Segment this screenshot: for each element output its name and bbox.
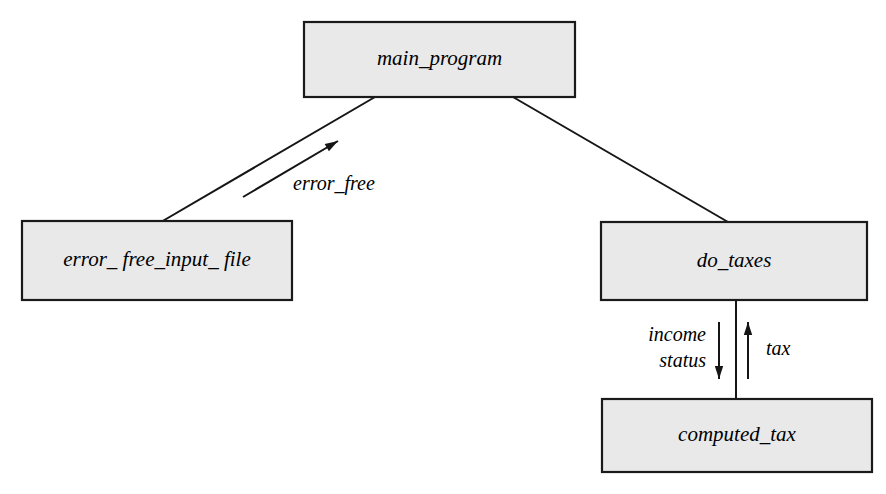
edge-main-program-to-error-free-input-file	[161, 97, 375, 222]
structure-chart-diagram: main_program error_ free_input_ file do_…	[0, 0, 886, 494]
data-flow-error-free: error_free	[243, 141, 375, 197]
node-label-error-free-input-file: error_ free_input_ file	[63, 247, 250, 271]
data-flow-label-income-status: incomestatus	[648, 323, 706, 371]
node-label-main-program: main_program	[377, 46, 502, 70]
node-do-taxes[interactable]: do_taxes	[601, 222, 867, 300]
arrow-head-error-free	[325, 141, 338, 151]
node-label-computed-tax: computed_tax	[678, 422, 796, 446]
data-flow-tax: tax	[744, 322, 791, 379]
arrow-head-income-status	[715, 366, 723, 379]
node-computed-tax[interactable]: computed_tax	[602, 399, 872, 472]
diagram-canvas: main_program error_ free_input_ file do_…	[0, 0, 886, 494]
data-flow-income-status: incomestatus	[648, 322, 723, 379]
data-flow-label-tax: tax	[766, 337, 791, 359]
data-flow-label-error-free: error_free	[293, 172, 375, 195]
node-main-program[interactable]: main_program	[304, 22, 575, 97]
arrow-head-tax	[744, 322, 752, 335]
edge-main-program-to-do-taxes	[513, 97, 728, 222]
node-error-free-input-file[interactable]: error_ free_input_ file	[22, 221, 292, 300]
node-label-do-taxes: do_taxes	[697, 248, 772, 272]
